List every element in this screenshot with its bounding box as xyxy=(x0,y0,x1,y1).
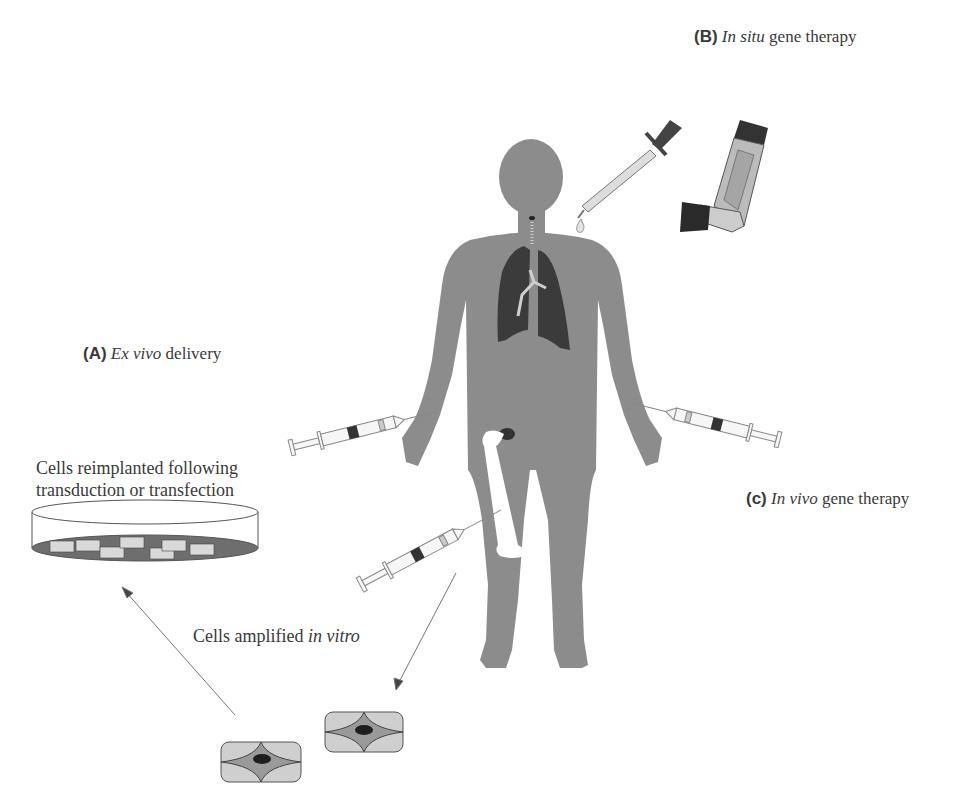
inhaler-icon xyxy=(680,120,768,232)
label-in-vivo: (c) In vivo gene therapy xyxy=(746,489,909,509)
cell-icon xyxy=(221,712,403,782)
petri-dish-icon xyxy=(32,500,258,561)
label-in-situ: (B) In situ gene therapy xyxy=(694,27,856,47)
caption-amplified: Cells amplified in vitro xyxy=(193,625,360,647)
gene-therapy-diagram xyxy=(0,0,979,809)
caption-reimplanted: Cells reimplanted following transduction… xyxy=(36,457,238,501)
label-ex-vivo: (A) Ex vivo delivery xyxy=(83,344,221,364)
dropper-icon xyxy=(577,120,682,232)
